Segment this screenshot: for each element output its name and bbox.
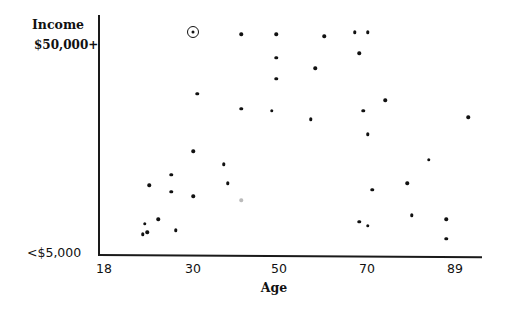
data-point [191,194,195,198]
data-point [353,30,357,34]
data-point [196,92,200,96]
data-point [467,115,471,119]
x-tick-30: 30 [185,261,201,276]
data-point [143,222,147,226]
data-point [239,32,243,36]
data-point [156,218,160,222]
data-point [314,66,318,70]
data-point [370,188,374,192]
data-point [274,32,278,36]
data-point [322,35,326,39]
x-tick-70: 70 [359,261,375,276]
data-point [222,162,226,166]
data-point [148,184,152,188]
data-point [410,213,414,217]
x-axis-title: Age [261,280,287,295]
data-point [274,56,278,60]
y-tick-bottom: <$5,000 [27,245,81,260]
scatter-chart: Income $50,000+ <$5,000 1830507089 Age [0,0,509,315]
data-point [366,224,370,228]
data-point [226,181,230,185]
data-point [239,199,243,203]
data-point [270,109,274,113]
data-point [239,107,243,111]
highlighted-data-point [187,26,199,38]
data-point [445,237,449,241]
data-point [145,230,149,234]
data-point [366,30,370,34]
x-axis-line [98,254,482,258]
data-point [366,132,370,136]
data-point [427,158,431,162]
data-point [191,150,195,154]
data-point [174,228,178,232]
y-axis-title: Income [32,17,84,32]
data-point [384,98,388,102]
x-tick-89: 89 [447,261,463,276]
y-tick-top: $50,000+ [34,38,98,52]
data-point [357,52,361,56]
data-point [169,173,173,177]
y-axis-line [98,15,100,256]
data-point [169,190,173,194]
data-point [405,181,409,185]
data-point [309,118,313,122]
data-point [362,109,366,113]
x-tick-18: 18 [96,261,112,276]
data-point [274,77,278,81]
data-point [141,233,145,237]
data-point [357,220,361,224]
x-tick-50: 50 [271,261,287,276]
data-point [445,218,449,222]
